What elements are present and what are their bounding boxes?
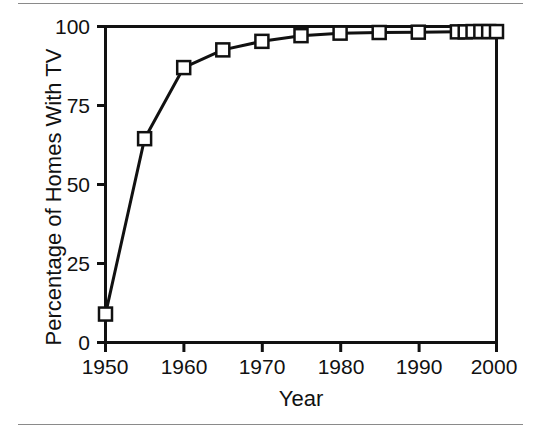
- data-point-markers: [99, 25, 503, 321]
- data-point-marker: [412, 26, 425, 39]
- data-point-marker: [138, 132, 151, 145]
- data-point-marker: [99, 308, 112, 321]
- axes-frame: [105, 26, 497, 343]
- x-tick-label-1950: 1950: [82, 356, 129, 377]
- chart-figure: 100 75 50 25 0 1950 1960 1970 1980 1990 …: [0, 0, 539, 436]
- y-axis-ticks: [97, 27, 105, 343]
- data-point-marker: [295, 29, 308, 42]
- data-point-marker: [255, 35, 268, 48]
- y-axis-label: Percentage of Homes With TV: [41, 32, 67, 362]
- data-point-marker: [373, 26, 386, 39]
- data-series-line: [106, 32, 497, 315]
- x-axis-label: Year: [105, 386, 497, 412]
- x-tick-label-1960: 1960: [161, 356, 208, 377]
- x-tick-label-1970: 1970: [239, 356, 286, 377]
- data-point-marker: [334, 27, 347, 40]
- data-point-marker: [177, 61, 190, 74]
- x-tick-label-1990: 1990: [396, 356, 443, 377]
- data-point-marker: [216, 43, 229, 56]
- x-tick-label-1980: 1980: [318, 356, 365, 377]
- data-point-marker: [490, 25, 503, 38]
- x-tick-label-2000: 2000: [471, 356, 518, 377]
